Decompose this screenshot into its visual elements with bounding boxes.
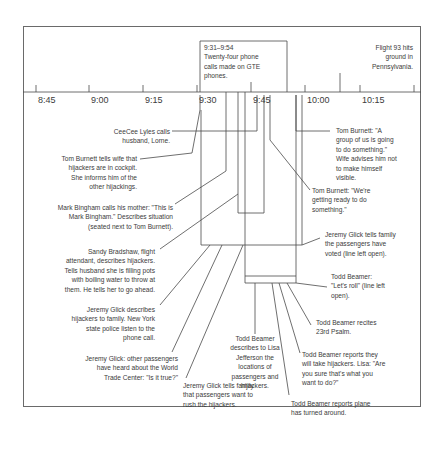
event-beamer-turn: Todd Beamer reports plane has turned aro… xyxy=(291,399,411,418)
event-glick-vote: Jeremy Glick tells family the passengers… xyxy=(325,230,421,258)
event-glick1: Jeremy Glick describes hijackers to fami… xyxy=(15,305,155,343)
phone-calls-box-text: 9:31–9:54 Twenty-four phone calls made o… xyxy=(204,43,260,81)
leader-box-inner xyxy=(238,95,264,213)
event-burnett-ready: Tom Burnett: "We're getting ready to do … xyxy=(312,186,402,214)
leader-bingham xyxy=(175,92,226,204)
event-beamer-take: Todd Beamer reports they will take hijac… xyxy=(302,350,420,388)
event-ceecee: CeeCee Lyles calls husband, Lorne. xyxy=(60,127,170,146)
event-glick2: Jeremy Glick: other passengers have hear… xyxy=(30,354,178,382)
tick-label: 9:15 xyxy=(145,95,163,105)
tick-label: 9:00 xyxy=(91,95,109,105)
tick-label: 9:30 xyxy=(199,95,217,105)
leader-glick-vote-tail xyxy=(302,238,320,245)
tick-label: 10:00 xyxy=(307,95,330,105)
leader-glick-vote xyxy=(245,92,296,276)
leader-frame-a xyxy=(201,95,302,245)
crash-event-label: Flight 93 hits ground in Pennsylvania. xyxy=(333,43,413,71)
axis-ticks xyxy=(36,82,414,92)
leader-beamer-psalm xyxy=(287,283,311,325)
tick-label: 8:45 xyxy=(38,95,56,105)
event-beamer-roll: Todd Beamer: "Let's roll" (line left ope… xyxy=(331,272,421,300)
tick-label: 10:15 xyxy=(362,95,385,105)
event-beamer1: Todd Beamer describes to Lisa Jefferson … xyxy=(209,334,301,390)
leader-burnett-ready xyxy=(270,95,310,190)
event-burnett1: Tom Burnett tells wife that hijackers ar… xyxy=(15,154,137,192)
event-beamer-psalm: Todd Beamer recites 23rd Psalm. xyxy=(316,318,416,337)
event-burnett-group: Tom Burnett: "A group of us is going to … xyxy=(336,126,422,182)
leader-beamer-roll xyxy=(296,276,327,287)
tick-label: 9:45 xyxy=(253,95,271,105)
leader-glick1 xyxy=(160,245,210,305)
event-bradshaw: Sandy Bradshaw, flight attendant, descri… xyxy=(15,247,155,294)
event-bingham: Mark Bingham calls his mother: "This is … xyxy=(15,203,173,231)
